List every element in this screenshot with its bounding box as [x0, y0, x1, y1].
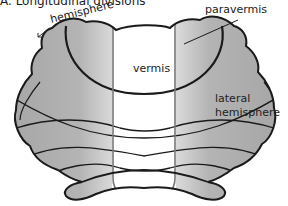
vermis-label: vermis	[133, 63, 170, 75]
lateral-hemisphere-label-line2: hemisphere	[215, 107, 280, 119]
lateral-hemisphere-label-line1: lateral	[215, 93, 250, 105]
paravermis-label: paravermis	[205, 4, 267, 16]
